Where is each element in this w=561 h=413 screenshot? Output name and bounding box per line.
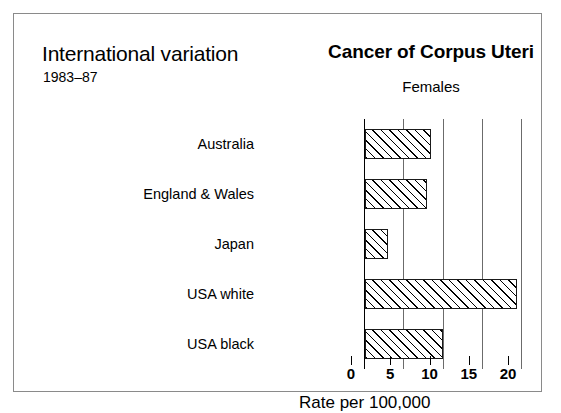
figure-frame: International variation 1983–87 Cancer o… bbox=[13, 13, 542, 392]
category-label: USA white bbox=[34, 286, 254, 302]
panel-subtitle-years: 1983–87 bbox=[43, 69, 98, 85]
x-axis-tick-label: 10 bbox=[415, 365, 445, 382]
x-axis-tick bbox=[390, 356, 391, 365]
chart-title: Cancer of Corpus Uteri bbox=[311, 41, 551, 63]
panel-title-left: International variation bbox=[42, 42, 238, 66]
x-axis-tick bbox=[430, 356, 431, 365]
x-axis-tick bbox=[508, 356, 509, 365]
chart-subtitle-sex: Females bbox=[311, 78, 551, 95]
bar bbox=[365, 279, 517, 309]
x-axis-tick-label: 5 bbox=[375, 365, 405, 382]
bar bbox=[365, 329, 443, 359]
x-axis-tick-label: 0 bbox=[336, 365, 366, 382]
x-axis-tick bbox=[351, 356, 352, 365]
bar bbox=[365, 179, 427, 209]
x-axis-tick bbox=[469, 356, 470, 365]
category-label: USA black bbox=[34, 336, 254, 352]
category-label: Japan bbox=[34, 236, 254, 252]
x-axis-tick-label: 20 bbox=[493, 365, 523, 382]
bar bbox=[365, 129, 431, 159]
plot-area bbox=[364, 119, 521, 369]
gridline-20 bbox=[521, 119, 522, 369]
category-label: Australia bbox=[34, 136, 254, 152]
category-label-column: AustraliaEngland & WalesJapanUSA whiteUS… bbox=[34, 119, 254, 369]
gridline-15 bbox=[482, 119, 483, 369]
bar bbox=[365, 229, 388, 259]
x-axis-title: Rate per 100,000 bbox=[299, 393, 430, 413]
x-axis-tick-label: 15 bbox=[454, 365, 484, 382]
category-label: England & Wales bbox=[34, 186, 254, 202]
gridline-10 bbox=[443, 119, 444, 369]
